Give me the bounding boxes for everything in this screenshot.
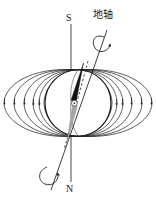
earth-magnetic-field-figure: S N 地轴 xyxy=(0,0,156,205)
rotation-arrow-bottom xyxy=(40,167,58,185)
magnetic-pole-label-n: N xyxy=(66,184,73,194)
compass-needle-pivot-center xyxy=(74,102,76,104)
diagram-canvas xyxy=(0,0,156,205)
earth-axis-label: 地轴 xyxy=(93,10,113,20)
rotation-arrow-top xyxy=(93,36,110,52)
magnetic-pole-label-s: S xyxy=(66,13,72,23)
